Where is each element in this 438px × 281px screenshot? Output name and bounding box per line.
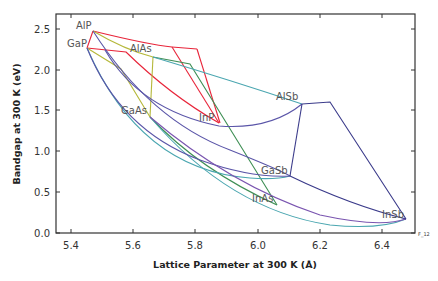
y-tick-label: 1.0: [34, 146, 50, 157]
y-tick-label: 2.0: [34, 65, 50, 76]
y-axis-title: Bandgap at 300 K (eV): [11, 63, 22, 184]
label-insb: InSb: [382, 209, 404, 220]
x-tick-label: 6.2: [312, 240, 328, 251]
y-ticks: [56, 29, 415, 233]
y-tick-label: 2.5: [34, 24, 50, 35]
x-tick-label: 5.6: [125, 240, 141, 251]
curve-alsb-insb: [302, 102, 406, 219]
label-alas: AlAs: [130, 43, 152, 54]
label-gap: GaP: [67, 38, 87, 49]
x-axis-title: Lattice Parameter at 300 K (Å): [153, 259, 317, 270]
label-gaas: GaAs: [121, 105, 147, 116]
label-inas: InAs: [252, 193, 273, 204]
curve-alsb-gasb: [290, 104, 302, 176]
label-gasb: GaSb: [261, 165, 288, 176]
y-tick-label: 0.5: [34, 187, 50, 198]
ternary-curves: [87, 31, 406, 227]
bandgap-chart: 5.4 5.6 5.8 6.0 6.2 6.4 0.0 0.5 1.0 1.5 …: [0, 0, 438, 281]
x-tick-label: 5.4: [63, 240, 79, 251]
x-tick-label: 6.4: [374, 240, 390, 251]
curve-alp-gap: [87, 31, 93, 48]
label-alp: AlP: [76, 20, 92, 31]
curve-alas-inas: [153, 57, 277, 205]
x-tick-label: 5.8: [187, 240, 203, 251]
y-tick-label: 1.5: [34, 105, 50, 116]
y-tick-label: 0.0: [34, 228, 50, 239]
label-alsb: AlSb: [276, 91, 298, 102]
x-tick-label: 6.0: [250, 240, 266, 251]
curve-alas-gaas: [150, 57, 153, 117]
plot-frame: [56, 14, 415, 233]
figure-note: F_12: [418, 231, 430, 238]
label-inp: InP: [199, 112, 214, 123]
